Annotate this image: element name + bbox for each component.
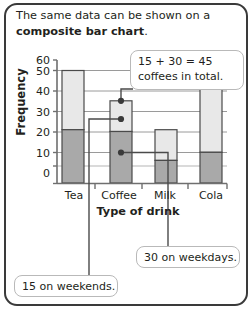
dot-weekends-15 xyxy=(118,116,124,122)
y-tick-10: 10 xyxy=(26,147,50,160)
callout-weekdays-text: 30 on weekdays. xyxy=(144,251,237,264)
y-tick-0: 0 xyxy=(26,167,50,180)
callout-equation-line1: 15 + 30 = 45 xyxy=(138,55,236,70)
bar-coffee xyxy=(110,101,132,183)
y-tick-50: 50 xyxy=(26,65,50,78)
y-tick-30: 30 xyxy=(26,106,50,119)
x-tick-coffee: Coffee xyxy=(97,189,141,202)
x-tick-milk: Milk xyxy=(144,189,186,202)
bar-milk xyxy=(155,130,177,183)
bar-cola xyxy=(200,89,222,183)
callout-weekdays: 30 on weekdays. xyxy=(136,246,240,268)
dot-weekdays-30 xyxy=(118,149,124,155)
callout-weekends-text: 15 on weekends. xyxy=(22,280,115,293)
callout-weekends: 15 on weekends. xyxy=(14,275,118,297)
x-tick-tea: Tea xyxy=(53,189,95,202)
callout-equation: 15 + 30 = 45 coffees in total. xyxy=(130,50,244,90)
callout-equation-line2: coffees in total. xyxy=(138,70,236,85)
y-tick-20: 20 xyxy=(26,126,50,139)
dot-total-45 xyxy=(118,98,124,104)
x-axis-label: Type of drink xyxy=(83,205,193,218)
x-tick-cola: Cola xyxy=(190,189,232,202)
bar-tea xyxy=(62,71,84,184)
y-tick-40: 40 xyxy=(26,85,50,98)
